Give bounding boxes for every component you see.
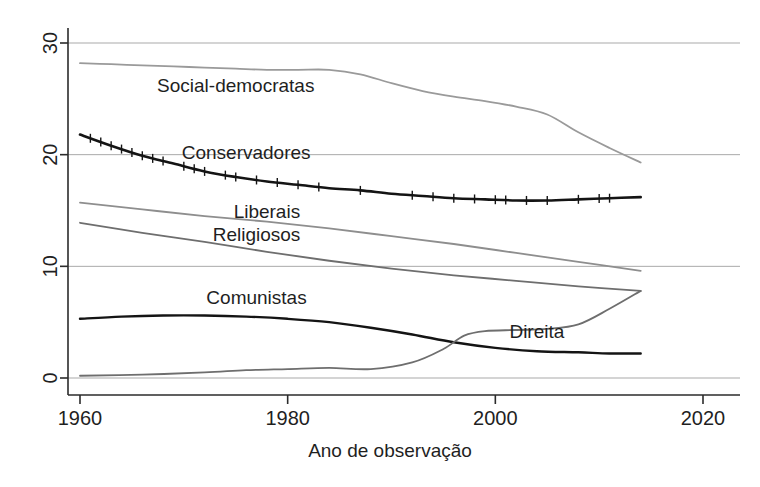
rug-marks-group xyxy=(90,134,609,205)
x-tick-label-1960: 1960 xyxy=(58,407,103,429)
series-label-liberais: Liberais xyxy=(234,201,301,222)
y-tick-label-30: 30 xyxy=(39,32,61,54)
series-label-direita: Direita xyxy=(509,321,564,342)
series-annotation-labels: Social-democratasConservadoresLiberaisRe… xyxy=(157,75,565,342)
y-tick-label-10: 10 xyxy=(39,255,61,277)
series-label-conservadores: Conservadores xyxy=(182,142,311,163)
x-axis-title: Ano de observação xyxy=(308,440,472,461)
series-label-comunistas: Comunistas xyxy=(206,287,306,308)
y-tick-label-20: 20 xyxy=(39,144,61,166)
y-axis-tick-labels: 0102030 xyxy=(39,32,61,384)
x-axis-tick-labels: 1960198020002020 xyxy=(58,407,726,429)
x-tick-label-2020: 2020 xyxy=(681,407,726,429)
series-label-social-democratas: Social-democratas xyxy=(157,75,314,96)
y-tick-label-0: 0 xyxy=(39,372,61,383)
line-chart-canvas: 0102030 1960198020002020 Social-democrat… xyxy=(0,0,760,487)
series-label-religiosos: Religiosos xyxy=(213,224,301,245)
x-tick-label-1980: 1980 xyxy=(265,407,310,429)
chart-figure: 0102030 1960198020002020 Social-democrat… xyxy=(0,0,760,487)
x-tick-label-2000: 2000 xyxy=(473,407,518,429)
